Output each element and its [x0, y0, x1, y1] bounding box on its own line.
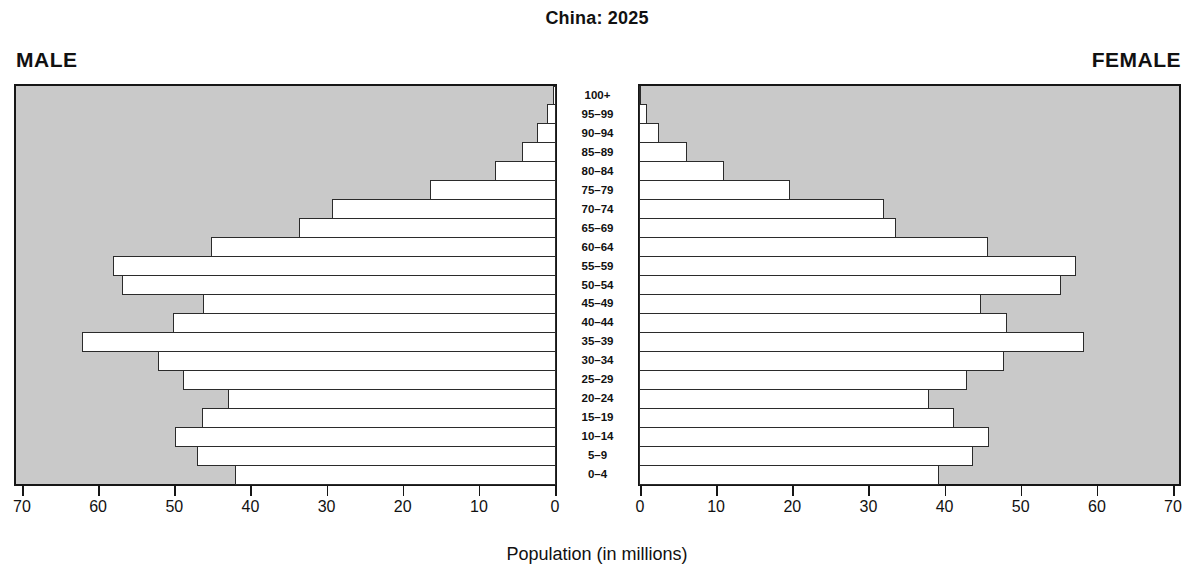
female-tick-50 — [1021, 486, 1023, 496]
male-bar-90–94 — [537, 123, 556, 143]
female-tick-20 — [792, 486, 794, 496]
male-bar-60–64 — [211, 237, 556, 257]
age-label-40–44: 40–44 — [557, 313, 638, 332]
age-label-5–9: 5–9 — [557, 446, 638, 465]
male-tick-0 — [555, 486, 557, 496]
female-tick-label-20: 20 — [770, 498, 814, 516]
male-bar-70–74 — [332, 199, 556, 219]
age-label-100+: 100+ — [557, 86, 638, 105]
female-bar-0–4 — [639, 465, 939, 485]
female-bar-5–9 — [639, 446, 973, 466]
male-bar-55–59 — [113, 256, 556, 276]
male-tick-label-30: 30 — [305, 498, 349, 516]
age-label-65–69: 65–69 — [557, 219, 638, 238]
male-bar-30–34 — [158, 351, 556, 371]
female-bar-95–99 — [639, 104, 647, 124]
female-tick-label-30: 30 — [846, 498, 890, 516]
male-tick-70 — [22, 486, 24, 496]
x-axis-title: Population (in millions) — [0, 544, 1194, 565]
female-bar-35–39 — [639, 332, 1084, 352]
female-bar-80–84 — [639, 161, 724, 181]
male-tick-label-50: 50 — [152, 498, 196, 516]
age-label-0–4: 0–4 — [557, 465, 638, 484]
age-label-55–59: 55–59 — [557, 257, 638, 276]
male-tick-10 — [479, 486, 481, 496]
female-bar-70–74 — [639, 199, 884, 219]
male-bar-15–19 — [202, 408, 556, 428]
female-plot-panel — [638, 84, 1181, 486]
female-bar-10–14 — [639, 427, 989, 447]
age-label-30–34: 30–34 — [557, 351, 638, 370]
female-header: FEMALE — [1092, 48, 1181, 72]
female-tick-40 — [945, 486, 947, 496]
female-bar-25–29 — [639, 370, 967, 390]
age-label-90–94: 90–94 — [557, 124, 638, 143]
male-tick-label-40: 40 — [228, 498, 272, 516]
male-bar-75–79 — [430, 180, 556, 200]
male-bar-80–84 — [495, 161, 556, 181]
male-bar-50–54 — [122, 275, 556, 295]
male-tick-20 — [403, 486, 405, 496]
age-label-75–79: 75–79 — [557, 181, 638, 200]
female-bar-20–24 — [639, 389, 929, 409]
age-label-60–64: 60–64 — [557, 238, 638, 257]
female-bar-85–89 — [639, 142, 687, 162]
age-label-35–39: 35–39 — [557, 332, 638, 351]
age-label-80–84: 80–84 — [557, 162, 638, 181]
female-bar-15–19 — [639, 408, 954, 428]
female-tick-label-0: 0 — [618, 498, 662, 516]
female-bar-60–64 — [639, 237, 988, 257]
age-label-45–49: 45–49 — [557, 294, 638, 313]
female-bar-65–69 — [639, 218, 896, 238]
female-tick-30 — [868, 486, 870, 496]
male-header: MALE — [16, 48, 78, 72]
female-tick-60 — [1097, 486, 1099, 496]
male-bar-20–24 — [228, 389, 556, 409]
female-bar-40–44 — [639, 313, 1007, 333]
age-label-50–54: 50–54 — [557, 276, 638, 295]
age-label-25–29: 25–29 — [557, 370, 638, 389]
male-plot-panel — [14, 84, 557, 486]
male-bar-85–89 — [522, 142, 556, 162]
male-bar-10–14 — [175, 427, 556, 447]
female-bar-45–49 — [639, 294, 981, 314]
female-tick-label-50: 50 — [999, 498, 1043, 516]
female-tick-10 — [716, 486, 718, 496]
female-tick-0 — [640, 486, 642, 496]
male-bar-65–69 — [299, 218, 556, 238]
age-label-20–24: 20–24 — [557, 389, 638, 408]
male-bar-40–44 — [173, 313, 556, 333]
age-label-15–19: 15–19 — [557, 408, 638, 427]
male-bar-95–99 — [547, 104, 556, 124]
female-bar-100+ — [639, 86, 641, 106]
age-label-10–14: 10–14 — [557, 427, 638, 446]
female-bar-75–79 — [639, 180, 790, 200]
male-tick-label-70: 70 — [0, 498, 44, 516]
male-tick-label-0: 0 — [533, 498, 577, 516]
male-bar-5–9 — [197, 446, 556, 466]
male-tick-label-20: 20 — [381, 498, 425, 516]
male-tick-50 — [174, 486, 176, 496]
female-bar-55–59 — [639, 256, 1076, 276]
female-tick-label-70: 70 — [1151, 498, 1194, 516]
female-bar-90–94 — [639, 123, 659, 143]
male-tick-30 — [327, 486, 329, 496]
male-tick-label-60: 60 — [76, 498, 120, 516]
male-bar-100+ — [553, 86, 556, 106]
male-bar-25–29 — [183, 370, 556, 390]
age-label-85–89: 85–89 — [557, 143, 638, 162]
female-tick-label-60: 60 — [1075, 498, 1119, 516]
female-tick-70 — [1173, 486, 1175, 496]
male-bar-0–4 — [235, 465, 556, 485]
male-tick-60 — [98, 486, 100, 496]
female-tick-label-40: 40 — [923, 498, 967, 516]
chart-title: China: 2025 — [0, 8, 1194, 29]
age-label-95–99: 95–99 — [557, 105, 638, 124]
male-bar-45–49 — [203, 294, 556, 314]
age-label-70–74: 70–74 — [557, 200, 638, 219]
male-tick-40 — [250, 486, 252, 496]
female-tick-label-10: 10 — [694, 498, 738, 516]
female-bar-30–34 — [639, 351, 1004, 371]
male-bar-35–39 — [82, 332, 556, 352]
female-bar-50–54 — [639, 275, 1061, 295]
